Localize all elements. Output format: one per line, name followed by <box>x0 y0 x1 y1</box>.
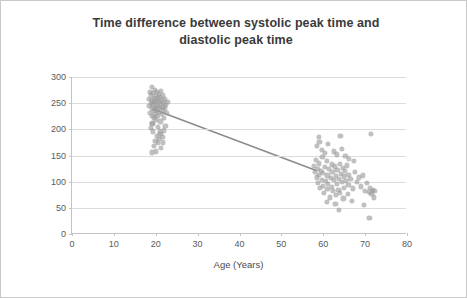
y-tick-label: 300 <box>36 72 66 82</box>
x-tick-mark <box>114 233 115 236</box>
x-tick-mark <box>198 233 199 236</box>
y-tick-label: 0 <box>36 229 66 239</box>
x-tick-mark <box>72 233 73 236</box>
y-tick-mark <box>69 182 72 183</box>
x-tick-label: 30 <box>186 239 210 249</box>
gridline <box>72 77 406 78</box>
y-tick-label: 200 <box>36 124 66 134</box>
x-tick-mark <box>407 233 408 236</box>
x-tick-label: 0 <box>60 239 84 249</box>
x-tick-label: 70 <box>353 239 377 249</box>
y-tick-label: 250 <box>36 98 66 108</box>
y-tick-label: 50 <box>36 203 66 213</box>
gridline <box>72 103 406 104</box>
x-tick-label: 20 <box>144 239 168 249</box>
chart-container: Time difference between systolic peak ti… <box>0 0 467 298</box>
x-tick-mark <box>323 233 324 236</box>
x-tick-label: 10 <box>102 239 126 249</box>
x-tick-label: 40 <box>228 239 252 249</box>
x-tick-mark <box>365 233 366 236</box>
y-tick-mark <box>69 103 72 104</box>
plot-area: 05010015020025030001020304050607080 <box>71 77 406 234</box>
y-tick-mark <box>69 129 72 130</box>
x-axis-title: Age (Years) <box>71 259 406 270</box>
y-tick-label: 150 <box>36 151 66 161</box>
gridline <box>72 156 406 157</box>
x-tick-mark <box>156 233 157 236</box>
y-tick-label: 100 <box>36 177 66 187</box>
x-tick-label: 50 <box>269 239 293 249</box>
x-tick-mark <box>281 233 282 236</box>
x-tick-label: 60 <box>311 239 335 249</box>
y-tick-mark <box>69 208 72 209</box>
gridline <box>72 129 406 130</box>
chart-title-line-1: Time difference between systolic peak ti… <box>51 15 421 32</box>
y-tick-mark <box>69 77 72 78</box>
gridline <box>72 208 406 209</box>
chart-title-line-2: diastolic peak time <box>51 32 421 49</box>
x-tick-mark <box>240 233 241 236</box>
chart-title: Time difference between systolic peak ti… <box>51 15 421 49</box>
x-tick-label: 80 <box>395 239 419 249</box>
y-tick-mark <box>69 156 72 157</box>
